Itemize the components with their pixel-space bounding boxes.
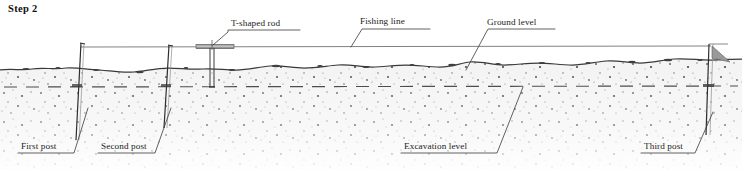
figure-step2-diagram: Step 2 [0, 0, 742, 170]
label-first-post: First post [21, 142, 56, 152]
label-second-post: Second post [101, 142, 147, 152]
fishing-line [80, 46, 711, 47]
leader-t-shaped-rod [213, 30, 300, 45]
label-third-post: Third post [644, 142, 683, 152]
leader-fishing-line [351, 29, 430, 47]
label-ground-level: Ground level [487, 18, 536, 28]
label-t-shaped-rod: T-shaped rod [231, 19, 280, 29]
label-fishing-line: Fishing line [360, 17, 405, 27]
label-excavation-level: Excavation level [404, 142, 467, 152]
